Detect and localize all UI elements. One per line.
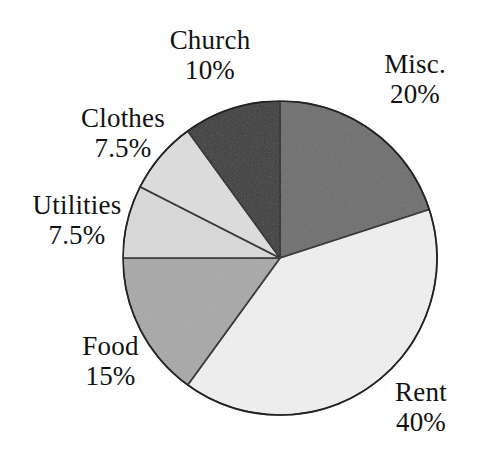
slice-label-misc-percent: 20% (350, 80, 480, 110)
slice-label-misc: Misc. 20% (350, 50, 480, 109)
slice-label-food: Food 15% (38, 332, 183, 391)
slice-label-food-name: Food (38, 332, 183, 362)
slice-label-food-percent: 15% (38, 362, 183, 392)
slice-label-utilities-percent: 7.5% (2, 221, 152, 251)
slice-label-utilities: Utilities 7.5% (2, 191, 152, 250)
slice-label-church-name: Church (135, 26, 285, 56)
slice-label-rent-percent: 40% (362, 408, 480, 438)
pie-chart-figure: Church 10% Misc. 20% Clothes 7.5% Utilit… (0, 0, 481, 473)
slice-label-rent: Rent 40% (362, 378, 480, 437)
slice-label-church-percent: 10% (135, 56, 285, 86)
slice-label-clothes-name: Clothes (48, 104, 198, 134)
slice-label-church: Church 10% (135, 26, 285, 85)
slice-label-utilities-name: Utilities (2, 191, 152, 221)
slice-label-misc-name: Misc. (350, 50, 480, 80)
slice-label-clothes-percent: 7.5% (48, 134, 198, 164)
slice-label-clothes: Clothes 7.5% (48, 104, 198, 163)
slice-label-rent-name: Rent (362, 378, 480, 408)
